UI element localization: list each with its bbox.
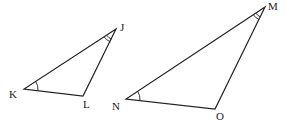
angle-mark-n [138,91,140,100]
triangle-mno-edges [126,7,265,109]
vertex-label-l: L [83,98,90,110]
angle-mark-m-inner [256,13,260,17]
similar-triangles-diagram: J K L M N O [0,0,289,122]
diagram-canvas: J K L M N O [0,0,289,122]
vertex-label-n: N [112,100,120,112]
angle-mark-j-inner [107,35,112,39]
vertex-label-k: K [9,88,17,100]
vertex-label-m: M [268,0,278,12]
triangle-jkl: J K L [9,21,125,110]
triangle-mno: M N O [112,0,278,122]
vertex-label-o: O [216,110,224,122]
angle-mark-k [36,81,38,90]
vertex-label-j: J [120,21,125,33]
